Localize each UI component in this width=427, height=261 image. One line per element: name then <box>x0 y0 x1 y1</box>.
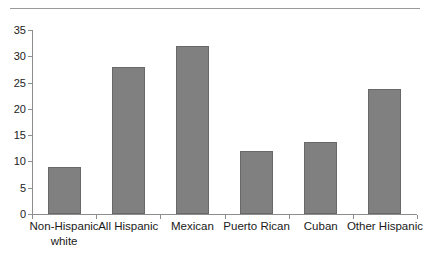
y-axis-line <box>32 30 33 215</box>
y-axis-tick <box>28 56 32 57</box>
y-axis-tick-label: 35 <box>14 25 26 36</box>
y-axis-tick-label: 5 <box>20 182 26 193</box>
y-axis-tick <box>28 161 32 162</box>
bar <box>304 142 337 214</box>
bar <box>48 167 81 214</box>
plot-area: 05101520253035 <box>32 30 417 215</box>
y-axis-tick <box>28 83 32 84</box>
x-axis-category-label: Other Hispanic <box>347 219 423 234</box>
bar <box>240 151 273 214</box>
y-axis-tick-label: 30 <box>14 51 26 62</box>
x-axis-category-labels: Non-Hispanic whiteAll HispanicMexicanPue… <box>32 219 417 261</box>
y-axis-tick-label: 20 <box>14 103 26 114</box>
y-axis-tick-label: 25 <box>14 77 26 88</box>
y-axis-tick <box>28 188 32 189</box>
bar-chart-figure: 05101520253035 Non-Hispanic whiteAll His… <box>0 0 427 261</box>
bar <box>176 46 209 214</box>
y-axis-tick <box>28 30 32 31</box>
bar <box>112 67 145 214</box>
y-axis-tick-label: 10 <box>14 156 26 167</box>
y-axis-tick-label: 0 <box>20 209 26 220</box>
y-axis-tick <box>28 135 32 136</box>
top-divider-rule <box>10 8 420 9</box>
y-axis-tick <box>28 109 32 110</box>
bar <box>368 89 401 214</box>
y-axis-tick-label: 15 <box>14 130 26 141</box>
